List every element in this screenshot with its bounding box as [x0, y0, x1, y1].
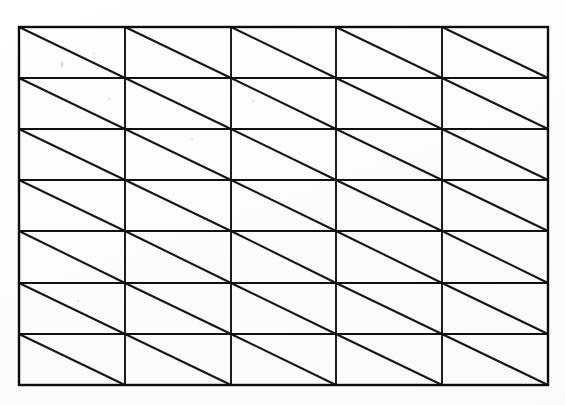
- cell-diagonal-r6-c1: [19, 283, 125, 334]
- cell-diagonal-r4-c1: [19, 180, 125, 231]
- cell-diagonal-r6-c4: [336, 283, 442, 334]
- cell-diagonal-r2-c4: [336, 78, 442, 129]
- cell-diagonal-r3-c2: [125, 129, 231, 180]
- cell-diagonal-r6-c3: [231, 283, 336, 334]
- cell-diagonal-r5-c2: [125, 231, 231, 283]
- cell-diagonal-r2-c2: [125, 78, 231, 129]
- cell-diagonal-r6-c2: [125, 283, 231, 334]
- cell-diagonal-r3-c4: [336, 129, 442, 180]
- cell-diagonal-r4-c5: [442, 180, 548, 231]
- cell-diagonal-r1-c4: [336, 27, 442, 78]
- cell-diagonal-r7-c1: [19, 334, 125, 385]
- cell-diagonal-r7-c2: [125, 334, 231, 385]
- cell-diagonal-r3-c5: [442, 129, 548, 180]
- cell-diagonal-r3-c1: [19, 129, 125, 180]
- cell-diagonal-r5-c3: [231, 231, 336, 283]
- cell-diagonal-r7-c3: [231, 334, 336, 385]
- cell-diagonal-r2-c3: [231, 78, 336, 129]
- cell-diagonal-r5-c5: [442, 231, 548, 283]
- triangulated-grid-figure: [0, 0, 565, 405]
- cell-diagonal-r1-c1: [19, 27, 125, 78]
- cell-diagonal-r1-c5: [442, 27, 548, 78]
- cell-diagonal-r5-c4: [336, 231, 442, 283]
- cell-diagonal-r2-c5: [442, 78, 548, 129]
- cell-diagonal-r5-c1: [19, 231, 125, 283]
- cell-diagonal-r7-c5: [442, 334, 548, 385]
- cell-diagonal-r1-c2: [125, 27, 231, 78]
- cell-diagonal-r7-c4: [336, 334, 442, 385]
- cell-diagonal-r4-c2: [125, 180, 231, 231]
- cell-diagonal-r6-c5: [442, 283, 548, 334]
- cell-diagonal-r4-c3: [231, 180, 336, 231]
- grid-group: [19, 27, 548, 385]
- cell-diagonal-r3-c3: [231, 129, 336, 180]
- figure-canvas: [0, 0, 565, 405]
- cell-diagonal-r2-c1: [19, 78, 125, 129]
- cell-diagonal-r4-c4: [336, 180, 442, 231]
- cell-diagonal-r1-c3: [231, 27, 336, 78]
